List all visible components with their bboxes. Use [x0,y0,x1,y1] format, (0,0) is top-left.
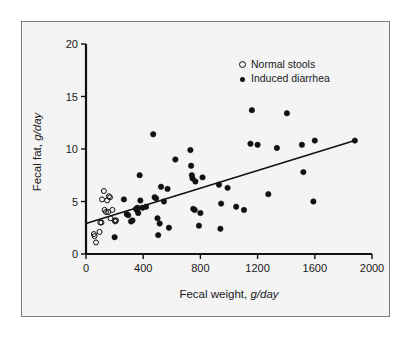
x-tick-label: 0 [83,262,89,274]
y-tick-label: 0 [54,248,78,260]
chart-screenshot: 040080012001600200005101520 Fecal weight… [0,0,412,338]
x-axis-title-unit: g/day [250,288,278,300]
x-tick-label: 400 [134,262,152,274]
x-tick-label: 2000 [360,262,384,274]
legend-item-induced-diarrhea: Induced diarrhea [237,71,330,85]
y-tick-label: 20 [54,38,78,50]
filled-circle-icon [237,72,248,84]
legend-item-normal-stools: Normal stools [237,57,330,71]
x-tick-label: 1600 [303,262,327,274]
x-tick-label: 1200 [245,262,269,274]
x-axis-title-text: Fecal weight, [179,288,250,300]
legend-label-normal-stools: Normal stools [251,58,315,70]
chart-legend: Normal stools Induced diarrhea [237,57,330,85]
y-tick-label: 10 [54,143,78,155]
y-tick-label: 5 [54,196,78,208]
y-axis-title-unit: g/day [31,113,43,141]
open-circle-icon [237,58,248,70]
y-tick-label: 15 [54,91,78,103]
x-tick-label: 800 [191,262,209,274]
y-axis-title: Fecal fat, g/day [31,52,43,252]
legend-label-induced-diarrhea: Induced diarrhea [251,72,330,84]
y-axis-title-text: Fecal fat, [31,141,43,192]
x-axis-title: Fecal weight, g/day [86,288,372,300]
